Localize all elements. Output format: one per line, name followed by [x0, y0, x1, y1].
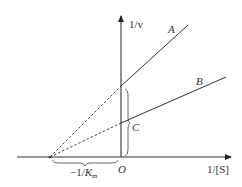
origin-label: O	[118, 163, 126, 175]
x-intercept-label: −1/Km	[70, 166, 98, 180]
x-intercept-prefix: −1/	[70, 166, 86, 178]
line-b	[121, 77, 226, 123]
y-brace	[125, 89, 130, 156]
line-a-label: A	[167, 23, 175, 35]
line-b-label: B	[196, 75, 203, 87]
x-axis-label: 1/[S]	[207, 163, 229, 175]
y-axis-label: 1/v	[129, 18, 144, 30]
x-intercept-sub: m	[92, 172, 98, 180]
line-a	[121, 25, 188, 86]
line-a-dashed	[50, 86, 121, 157]
lineweaver-burk-diagram: 1/v A B C O 1/[S] −1/Km	[0, 0, 242, 187]
x-intercept-point	[49, 156, 51, 158]
point-c-label: C	[132, 121, 140, 133]
line-b-dashed	[50, 123, 121, 157]
